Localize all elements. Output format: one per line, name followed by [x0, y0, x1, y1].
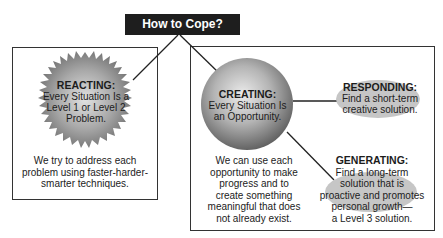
generating-title: GENERATING:: [310, 155, 434, 167]
creating-description: We can use each opportunity to make prog…: [194, 155, 314, 224]
generating-line: personal growth—: [310, 201, 434, 213]
reacting-line: Every Situation Is a: [34, 91, 138, 102]
connector-to-creating: [180, 35, 220, 74]
description-line: We can use each: [194, 155, 314, 167]
reacting-title: REACTING:: [34, 80, 138, 91]
description-line: opportunity to make: [194, 167, 314, 179]
generating-label: GENERATING: Find a long-term solution th…: [310, 155, 434, 224]
generating-line: Find a long-term: [310, 167, 434, 179]
description-line: not already exist.: [194, 213, 314, 225]
page-title: How to Cope?: [125, 14, 240, 35]
creating-line: an Opportunity.: [200, 111, 295, 122]
reacting-line: Problem.: [34, 113, 138, 124]
generating-line: solution that is: [310, 178, 434, 190]
responding-title: RESPONDING:: [330, 82, 430, 93]
reacting-description: We try to address each problem using fas…: [14, 155, 156, 190]
generating-line: a Level 3 solution.: [310, 213, 434, 225]
connector-to-reacting: [133, 35, 178, 80]
reacting-line: Level 1 or Level 2: [34, 102, 138, 113]
description-line: progress and to: [194, 178, 314, 190]
description-line: create something: [194, 190, 314, 202]
responding-label: RESPONDING: Find a short-term creative s…: [330, 82, 430, 115]
description-line: meaningful that does: [194, 201, 314, 213]
coping-diagram: How to Cope? REACTING: Every Situation I…: [0, 0, 443, 238]
creating-line: Every Situation Is: [200, 100, 295, 111]
description-line: We try to address each: [14, 155, 156, 167]
creating-title: CREATING:: [200, 89, 295, 100]
generating-line: proactive and promotes: [310, 190, 434, 202]
responding-line: creative solution.: [330, 104, 430, 115]
creating-label: CREATING: Every Situation Is an Opportun…: [200, 89, 295, 122]
description-line: smarter techniques.: [14, 178, 156, 190]
reacting-label: REACTING: Every Situation Is a Level 1 o…: [34, 80, 138, 124]
description-line: problem using faster-harder-: [14, 167, 156, 179]
responding-line: Find a short-term: [330, 93, 430, 104]
